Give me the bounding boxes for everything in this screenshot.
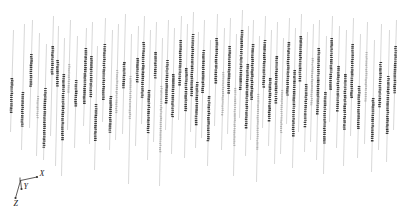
track <box>351 18 354 136</box>
track <box>263 16 266 128</box>
track-guide-line <box>287 18 290 124</box>
track <box>358 34 361 158</box>
track-segment-dark <box>186 68 187 111</box>
track-guide-line <box>275 22 278 164</box>
track <box>196 32 199 148</box>
track-segment-dark <box>172 74 173 117</box>
track-guide-line <box>185 24 188 158</box>
track <box>251 20 254 140</box>
track <box>202 20 205 138</box>
track <box>62 38 65 176</box>
track-segment-light <box>130 76 131 119</box>
track-guide-line <box>95 46 98 170</box>
track <box>228 18 231 134</box>
track-guide-line <box>372 40 375 172</box>
track-segment-light <box>281 90 282 133</box>
track-segment-dark <box>228 46 229 94</box>
track-guide-line <box>62 38 65 176</box>
axis-line-y <box>21 181 22 190</box>
three-d-track-plot: XYZ <box>0 0 403 216</box>
track <box>379 24 382 150</box>
track <box>269 30 272 146</box>
track <box>129 34 132 184</box>
track <box>324 36 327 174</box>
track <box>179 16 182 120</box>
axis-line-z <box>16 181 21 199</box>
track <box>116 24 119 140</box>
track-guide-line <box>84 28 87 126</box>
track <box>51 16 54 136</box>
track <box>394 20 397 130</box>
track <box>387 30 390 162</box>
track <box>185 24 188 158</box>
track-guide-line <box>311 24 314 142</box>
track-segment-light <box>311 58 312 105</box>
track <box>287 18 290 124</box>
track <box>136 26 139 146</box>
track-guide-line <box>129 34 132 184</box>
track <box>90 22 93 144</box>
track <box>330 16 333 122</box>
track <box>44 44 47 160</box>
track <box>84 28 87 126</box>
track-guide-line <box>136 26 139 146</box>
track-segment-dark <box>276 56 277 104</box>
figure-canvas: XYZ <box>0 0 403 216</box>
track <box>281 38 284 154</box>
track-guide-line <box>281 38 284 154</box>
track-collection <box>11 10 397 186</box>
track <box>148 30 151 160</box>
axis-line-x <box>21 177 38 181</box>
track-guide-line <box>75 36 78 148</box>
track <box>246 26 249 156</box>
track-guide-line <box>269 30 272 146</box>
track-guide-line <box>379 24 382 150</box>
track <box>208 40 211 166</box>
track-segment-light <box>116 70 117 113</box>
track <box>337 26 340 148</box>
track-guide-line <box>90 22 93 144</box>
track-guide-line <box>56 26 59 166</box>
track-segment-dark <box>372 98 373 141</box>
axis-arrow-y-icon <box>20 188 22 190</box>
track-guide-line <box>51 16 54 136</box>
track <box>191 12 194 132</box>
track <box>166 20 169 130</box>
track-segment-dark <box>148 90 149 133</box>
track-guide-line <box>299 14 302 132</box>
track-guide-line <box>365 22 368 144</box>
track-guide-line <box>37 33 40 156</box>
coordinate-axis-triad: XYZ <box>14 169 46 209</box>
track-guide-line <box>154 22 157 142</box>
track <box>372 40 375 172</box>
track-guide-line <box>246 26 249 156</box>
track <box>365 22 368 144</box>
track-guide-line <box>196 32 199 148</box>
track-guide-line <box>116 24 119 140</box>
track-segment-dark <box>203 50 204 93</box>
axis-label-z: Z <box>14 199 19 208</box>
axis-label-y: Y <box>24 182 30 191</box>
track <box>56 26 59 166</box>
track <box>110 30 113 150</box>
track <box>30 20 33 128</box>
track-segment-dark <box>269 78 270 121</box>
track <box>257 36 260 182</box>
track <box>142 16 145 124</box>
track <box>305 32 308 152</box>
track-segment-dark <box>240 30 242 90</box>
track <box>123 14 126 134</box>
track-guide-line <box>387 30 390 162</box>
track-guide-line <box>394 20 397 130</box>
axis-arrow-x-icon <box>36 176 38 178</box>
track <box>222 28 225 150</box>
track-segment-dark <box>394 46 395 93</box>
track <box>160 38 163 186</box>
track <box>299 14 302 132</box>
track-segment-dark <box>22 92 23 127</box>
track <box>215 14 218 126</box>
track-segment-dark <box>44 88 46 148</box>
track <box>11 30 14 132</box>
track <box>344 30 347 166</box>
track-segment-dark <box>11 78 12 113</box>
